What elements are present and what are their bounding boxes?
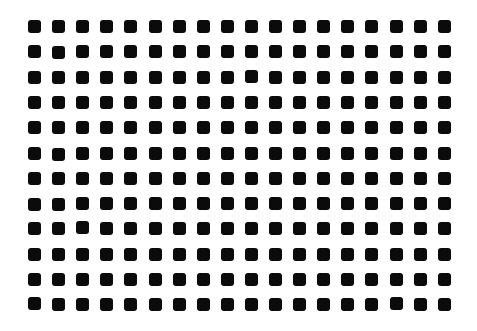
grid-square: [197, 147, 210, 160]
grid-square: [438, 298, 451, 311]
grid-square: [341, 121, 354, 134]
grid-square: [124, 147, 137, 160]
grid-square: [197, 298, 210, 311]
grid-square: [221, 71, 234, 84]
grid-square: [76, 197, 89, 210]
grid-square: [245, 96, 258, 109]
grid-square: [52, 121, 65, 134]
grid-square: [341, 222, 354, 235]
grid-square: [269, 172, 282, 185]
grid-square: [149, 147, 162, 160]
grid-square: [341, 147, 354, 160]
grid-square: [414, 71, 427, 84]
grid-square: [317, 222, 330, 235]
grid-square: [124, 273, 137, 286]
grid-square: [245, 45, 258, 58]
grid-square: [149, 172, 162, 185]
grid-square: [124, 222, 137, 235]
grid-square: [173, 172, 186, 185]
grid-square: [269, 147, 282, 160]
grid-square: [173, 298, 186, 311]
grid-square: [76, 20, 89, 33]
grid-square: [390, 222, 403, 235]
grid-square: [100, 121, 113, 134]
grid-square: [52, 222, 65, 235]
grid-square: [341, 197, 354, 210]
grid-square: [390, 121, 403, 134]
grid-square: [390, 147, 403, 160]
grid-square: [438, 172, 451, 185]
grid-square: [365, 248, 378, 261]
grid-square: [414, 273, 427, 286]
grid-square: [438, 20, 451, 33]
grid-square: [245, 222, 258, 235]
grid-square: [269, 96, 282, 109]
grid-square: [293, 298, 306, 311]
grid-square: [365, 172, 378, 185]
grid-square: [390, 297, 403, 310]
grid-square: [438, 71, 451, 84]
grid-square: [341, 172, 354, 185]
grid-square: [221, 273, 234, 286]
grid-square: [245, 121, 258, 134]
grid-square: [438, 197, 451, 210]
grid-square: [438, 121, 451, 134]
grid-square: [293, 121, 306, 134]
grid-square: [245, 273, 258, 286]
grid-square: [390, 273, 403, 286]
grid-square: [28, 121, 41, 134]
grid-square: [28, 273, 41, 286]
grid-square: [52, 96, 65, 109]
grid-square: [173, 147, 186, 160]
grid-square: [317, 248, 330, 261]
grid-square: [293, 45, 306, 58]
grid-square: [414, 20, 427, 33]
grid-square: [245, 172, 258, 185]
grid-square: [414, 172, 427, 185]
grid-square: [390, 45, 403, 58]
grid-square: [341, 248, 354, 261]
grid-square: [269, 20, 282, 33]
grid-square: [52, 248, 65, 261]
square-dot-grid: [0, 0, 477, 331]
grid-square: [173, 71, 186, 84]
grid-square: [365, 222, 378, 235]
grid-square: [390, 248, 403, 261]
grid-square: [76, 298, 89, 311]
grid-square: [317, 71, 330, 84]
grid-square: [149, 121, 162, 134]
grid-square: [390, 96, 403, 109]
grid-square: [414, 96, 427, 109]
grid-square: [100, 71, 113, 84]
grid-square: [438, 248, 451, 261]
grid-square: [293, 222, 306, 235]
grid-square: [100, 273, 113, 286]
grid-square: [28, 198, 41, 211]
grid-square: [438, 96, 451, 109]
grid-square: [221, 147, 234, 160]
grid-square: [317, 96, 330, 109]
grid-square: [197, 197, 210, 210]
grid-square: [245, 248, 258, 261]
grid-square: [124, 248, 137, 261]
grid-square: [124, 45, 137, 58]
grid-square: [100, 222, 113, 235]
grid-square: [269, 298, 282, 311]
grid-square: [149, 20, 162, 33]
grid-square: [28, 45, 41, 58]
grid-square: [76, 71, 89, 84]
grid-square: [52, 71, 65, 84]
grid-square: [76, 172, 89, 185]
grid-square: [221, 96, 234, 109]
grid-square: [365, 71, 378, 84]
grid-square: [100, 172, 113, 185]
grid-square: [293, 248, 306, 261]
grid-square: [124, 121, 137, 134]
grid-square: [269, 273, 282, 286]
grid-square: [269, 222, 282, 235]
grid-square: [414, 222, 427, 235]
grid-square: [52, 273, 65, 286]
grid-square: [390, 71, 403, 84]
grid-square: [149, 96, 162, 109]
grid-square: [414, 248, 427, 261]
